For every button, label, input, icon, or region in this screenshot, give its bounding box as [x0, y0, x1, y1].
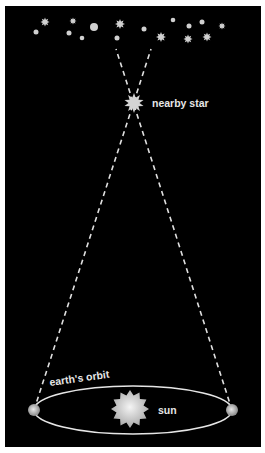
background-dot-icon [34, 30, 39, 35]
background-star-icon [203, 33, 212, 42]
background-dot-icon [115, 36, 120, 41]
background-dot-icon [171, 18, 176, 23]
nearby-star-label: nearby star [152, 97, 209, 109]
background-star-icon [41, 18, 50, 27]
background-dot-icon [142, 27, 147, 32]
sun-label: sun [158, 404, 177, 416]
parallax-diagram: nearby star earth's orbit sun [0, 0, 265, 453]
background-star-icon [184, 35, 193, 44]
background-dot-icon [80, 36, 85, 41]
background-dot-icon [67, 31, 72, 36]
background-star-icon [156, 32, 166, 42]
background-star-icon [219, 23, 226, 30]
earth-left-icon [28, 404, 40, 416]
background-star-icon [115, 19, 125, 29]
background-dot-icon [187, 24, 192, 29]
background-star-icon [70, 18, 77, 25]
background-dot-icon [200, 20, 205, 25]
earth-right-icon [226, 404, 238, 416]
background-dot-icon [90, 23, 98, 31]
